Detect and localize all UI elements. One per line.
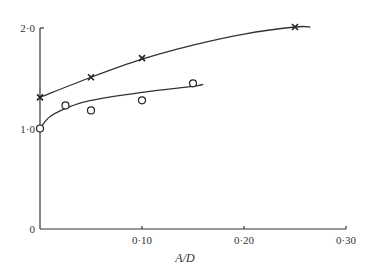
fit-curves xyxy=(40,26,310,128)
y-tick-label: 1·0 xyxy=(20,123,35,135)
circle-marker xyxy=(62,102,69,109)
fit-curve-crosses xyxy=(40,26,310,97)
x-tick-label: 0·20 xyxy=(234,234,255,246)
axes: 0·100·200·3001·02·0 xyxy=(20,22,356,246)
circle-marker xyxy=(190,80,197,87)
circle-marker xyxy=(139,97,146,104)
x-tick-label: 0·30 xyxy=(336,234,357,246)
chart: 0·100·200·3001·02·0 A/D xyxy=(0,0,375,272)
x-tick-label: 0·10 xyxy=(132,234,153,246)
y-tick-label: 0 xyxy=(30,223,36,235)
y-tick-label: 2·0 xyxy=(20,22,35,34)
circle-marker xyxy=(37,125,44,132)
cross-marker xyxy=(88,74,94,80)
x-axis-title: A/D xyxy=(174,251,195,265)
data-markers xyxy=(37,24,299,132)
circle-marker xyxy=(88,107,95,114)
